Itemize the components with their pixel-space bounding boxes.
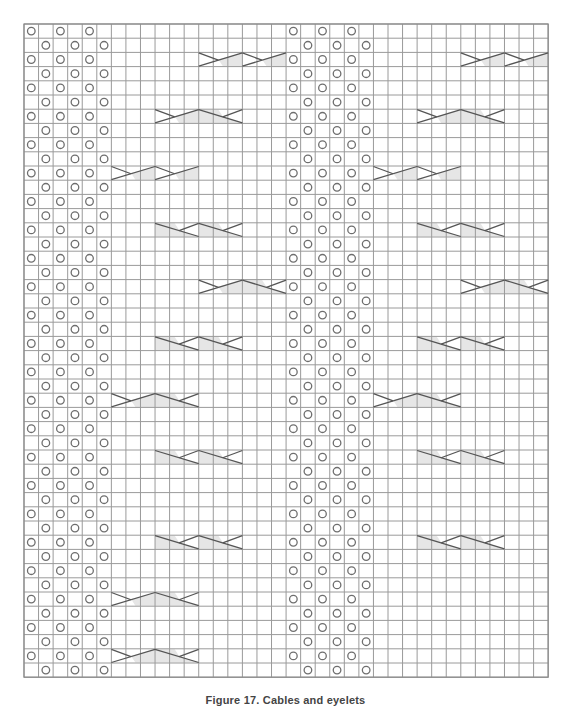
eyelet-circle-icon: [290, 539, 298, 547]
eyelet-circle-icon: [362, 581, 370, 589]
eyelet-circle-icon: [362, 127, 370, 135]
eyelet-circle-icon: [348, 539, 356, 547]
eyelet-circle-icon: [290, 453, 298, 461]
eyelet-circle-icon: [57, 84, 65, 92]
eyelet-circle-icon: [57, 595, 65, 603]
eyelet-circle-icon: [100, 269, 108, 277]
eyelet-circle-icon: [304, 496, 312, 504]
eyelet-circle-icon: [57, 510, 65, 518]
eyelet-circle-icon: [71, 42, 79, 50]
eyelet-circle-icon: [348, 368, 356, 376]
eyelet-circle-icon: [86, 141, 94, 149]
eyelet-circle-icon: [100, 411, 108, 419]
eyelet-circle-icon: [333, 411, 341, 419]
eyelet-circle-icon: [42, 382, 50, 390]
eyelet-circle-icon: [42, 581, 50, 589]
eyelet-circle-icon: [86, 425, 94, 433]
eyelet-circle-icon: [57, 198, 65, 206]
eyelet-circle-icon: [348, 56, 356, 64]
eyelet-circle-icon: [86, 198, 94, 206]
eyelet-circle-icon: [348, 254, 356, 262]
eyelet-circle-icon: [27, 84, 35, 92]
eyelet-circle-icon: [319, 84, 327, 92]
eyelet-circle-icon: [27, 311, 35, 319]
eyelet-circle-icon: [319, 141, 327, 149]
eyelet-circle-icon: [86, 226, 94, 234]
eyelet-circle-icon: [362, 439, 370, 447]
eyelet-circle-icon: [57, 624, 65, 632]
eyelet-circle-icon: [304, 269, 312, 277]
eyelet-circle-icon: [333, 496, 341, 504]
eyelet-circle-icon: [57, 482, 65, 490]
eyelet-circle-icon: [348, 425, 356, 433]
eyelet-circle-icon: [71, 524, 79, 532]
eyelet-circle-icon: [71, 666, 79, 674]
eyelet-circle-icon: [100, 638, 108, 646]
eyelet-circle-icon: [362, 411, 370, 419]
eyelet-circle-icon: [100, 553, 108, 561]
eyelet-circle-icon: [348, 141, 356, 149]
eyelet-circle-icon: [304, 666, 312, 674]
eyelet-circle-icon: [362, 70, 370, 78]
eyelet-circle-icon: [348, 84, 356, 92]
eyelet-circle-icon: [71, 240, 79, 248]
eyelet-circle-icon: [319, 311, 327, 319]
eyelet-circle-icon: [42, 326, 50, 334]
eyelet-circle-icon: [319, 283, 327, 291]
eyelet-circle-icon: [319, 368, 327, 376]
eyelet-circle-icon: [362, 553, 370, 561]
eyelet-circle-icon: [333, 212, 341, 220]
eyelet-circle-icon: [362, 98, 370, 106]
eyelet-circle-icon: [42, 212, 50, 220]
eyelet-circle-icon: [100, 297, 108, 305]
eyelet-circle-icon: [333, 269, 341, 277]
eyelet-circle-icon: [348, 595, 356, 603]
eyelet-circle-icon: [304, 553, 312, 561]
eyelet-circle-icon: [57, 254, 65, 262]
eyelet-circle-icon: [100, 468, 108, 476]
eyelet-circle-icon: [304, 411, 312, 419]
eyelet-circle-icon: [71, 98, 79, 106]
eyelet-circle-icon: [319, 226, 327, 234]
eyelet-circle-icon: [27, 113, 35, 121]
eyelet-circle-icon: [348, 482, 356, 490]
eyelet-circle-icon: [27, 595, 35, 603]
eyelet-circle-icon: [27, 56, 35, 64]
eyelet-circle-icon: [304, 581, 312, 589]
eyelet-circle-icon: [304, 382, 312, 390]
eyelet-circle-icon: [57, 226, 65, 234]
eyelet-circle-icon: [304, 468, 312, 476]
eyelet-circle-icon: [71, 297, 79, 305]
eyelet-circle-icon: [42, 638, 50, 646]
eyelet-circle-icon: [362, 184, 370, 192]
eyelet-circle-icon: [86, 510, 94, 518]
eyelet-circle-icon: [319, 56, 327, 64]
eyelet-circle-icon: [100, 382, 108, 390]
eyelet-circle-icon: [290, 368, 298, 376]
eyelet-circle-icon: [290, 397, 298, 405]
eyelet-circle-icon: [86, 254, 94, 262]
eyelet-circle-icon: [319, 567, 327, 575]
eyelet-circle-icon: [86, 567, 94, 575]
eyelet-circle-icon: [333, 326, 341, 334]
eyelet-circle-icon: [42, 155, 50, 163]
figure-caption: Figure 17. Cables and eyelets: [0, 694, 571, 706]
eyelet-circle-icon: [362, 610, 370, 618]
eyelet-circle-icon: [290, 113, 298, 121]
eyelet-circle-icon: [100, 155, 108, 163]
eyelet-circle-icon: [319, 453, 327, 461]
eyelet-circle-icon: [42, 553, 50, 561]
eyelet-circle-icon: [319, 482, 327, 490]
eyelet-circle-icon: [42, 297, 50, 305]
eyelet-circle-icon: [319, 113, 327, 121]
eyelet-circle-icon: [86, 169, 94, 177]
eyelet-circle-icon: [290, 595, 298, 603]
eyelet-circle-icon: [100, 439, 108, 447]
eyelet-circle-icon: [348, 510, 356, 518]
eyelet-circle-icon: [290, 56, 298, 64]
eyelet-circle-icon: [100, 496, 108, 504]
eyelet-circle-icon: [42, 184, 50, 192]
eyelet-circle-icon: [319, 539, 327, 547]
eyelet-circle-icon: [290, 198, 298, 206]
